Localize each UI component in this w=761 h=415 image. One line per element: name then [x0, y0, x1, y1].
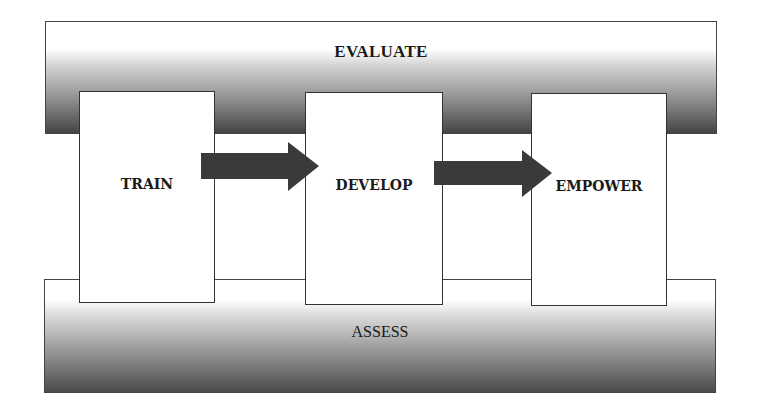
stage-box-develop: DEVELOP — [305, 92, 443, 305]
stage-box-empower: EMPOWER — [531, 93, 667, 306]
arrow-right-icon — [201, 142, 321, 192]
assess-label: ASSESS — [45, 323, 715, 341]
arrow-right-icon — [434, 150, 554, 198]
stage-label-train: TRAIN — [80, 176, 214, 192]
stage-label-develop: DEVELOP — [306, 177, 442, 193]
stage-box-train: TRAIN — [79, 91, 215, 303]
evaluate-label: EVALUATE — [46, 42, 716, 62]
